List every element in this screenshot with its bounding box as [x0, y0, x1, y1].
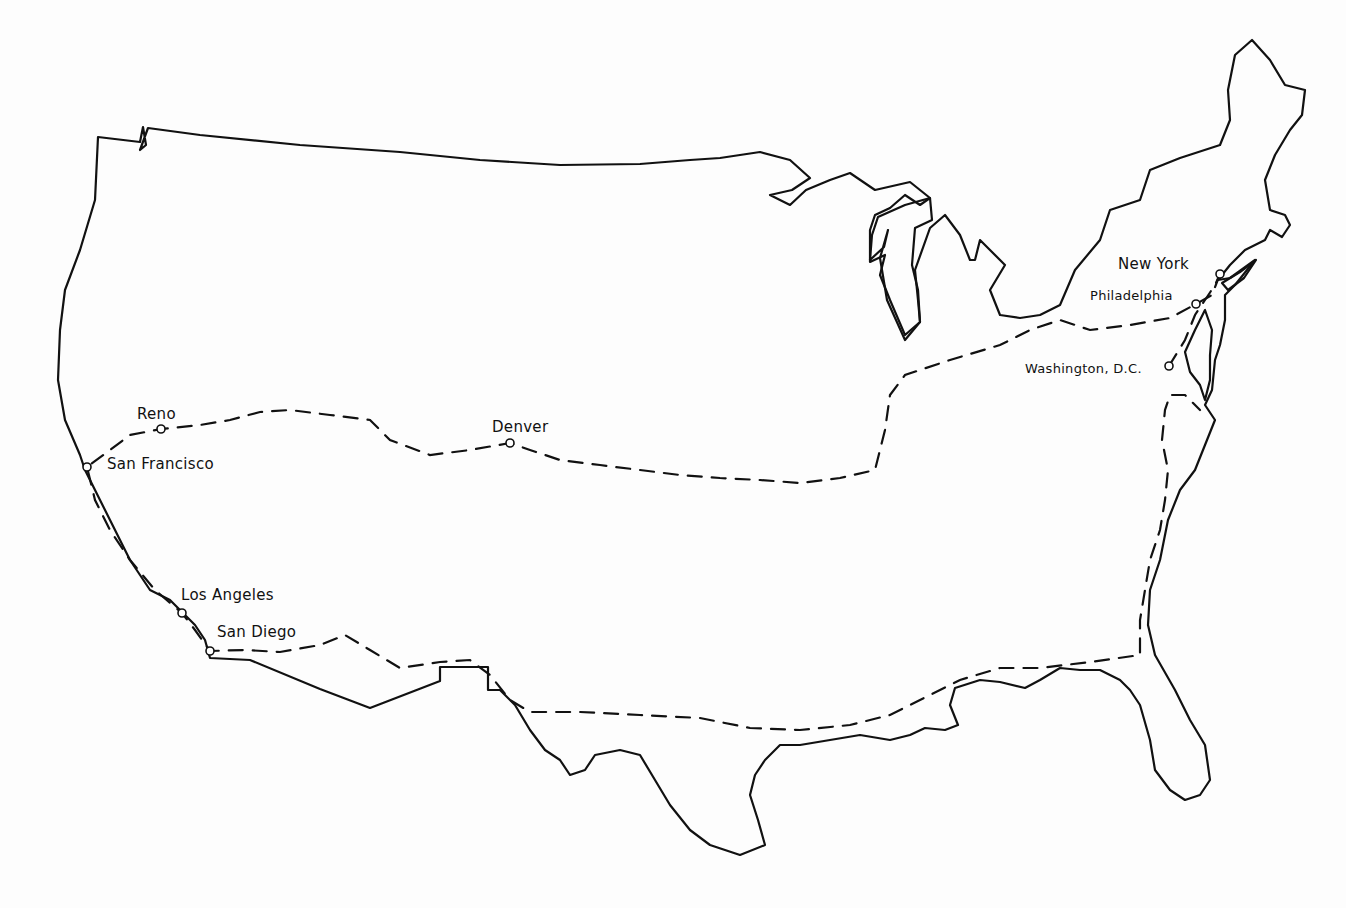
us-border [58, 40, 1305, 855]
city-marker-new-york[interactable] [1216, 270, 1224, 278]
city-label-reno: Reno [137, 405, 176, 423]
city-marker-san-francisco[interactable] [83, 463, 91, 471]
city-label-washington-dc: Washington, D.C. [1025, 361, 1142, 376]
city-label-denver: Denver [492, 418, 548, 436]
city-marker-san-diego[interactable] [206, 647, 214, 655]
city-marker-los-angeles[interactable] [178, 609, 186, 617]
lake-michigan [870, 198, 932, 340]
city-marker-washington-dc[interactable] [1165, 362, 1173, 370]
us-outline-map [0, 0, 1346, 908]
city-marker-denver[interactable] [506, 439, 514, 447]
chesapeake-bay [1185, 310, 1212, 400]
long-island [1222, 260, 1256, 290]
travel-route [87, 274, 1220, 730]
us-map: New York Philadelphia Washington, D.C. D… [0, 0, 1346, 908]
city-label-san-francisco: San Francisco [107, 455, 214, 473]
city-label-philadelphia: Philadelphia [1090, 288, 1173, 303]
city-label-los-angeles: Los Angeles [181, 586, 274, 604]
travel-route-northbound [1169, 274, 1220, 366]
city-label-new-york: New York [1118, 255, 1189, 273]
city-marker-reno[interactable] [157, 425, 165, 433]
city-marker-philadelphia[interactable] [1192, 300, 1200, 308]
city-label-san-diego: San Diego [217, 623, 296, 641]
